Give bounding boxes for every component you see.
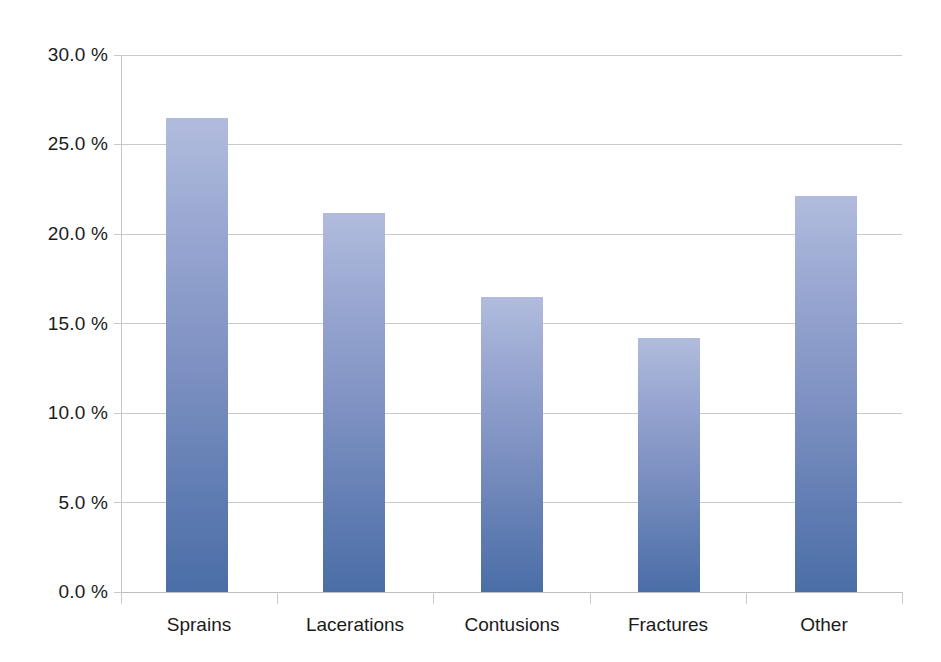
y-axis-tick-mark bbox=[114, 55, 121, 56]
x-axis-tick-mark bbox=[590, 592, 591, 604]
y-axis-tick-mark bbox=[114, 323, 121, 324]
x-axis-tick-mark bbox=[902, 592, 903, 604]
y-axis-tick-mark bbox=[114, 144, 121, 145]
x-tick-label-lacerations: Lacerations bbox=[306, 614, 404, 636]
gridline-20 bbox=[121, 234, 902, 235]
x-axis-tick-mark bbox=[433, 592, 434, 604]
bar-fractures bbox=[638, 338, 700, 592]
plot-area bbox=[121, 55, 902, 592]
x-axis-tick-mark bbox=[277, 592, 278, 604]
y-axis-labels: 30.0 % 25.0 % 20.0 % 15.0 % 10.0 % 5.0 %… bbox=[0, 0, 108, 662]
x-axis-tick-mark bbox=[746, 592, 747, 604]
x-tick-label-fractures: Fractures bbox=[628, 614, 708, 636]
y-tick-label-10: 10.0 % bbox=[8, 402, 108, 424]
y-tick-label-25: 25.0 % bbox=[8, 133, 108, 155]
gridline-25 bbox=[121, 144, 902, 145]
y-tick-label-15: 15.0 % bbox=[8, 313, 108, 335]
bar-lacerations bbox=[323, 213, 385, 592]
y-axis-tick-mark bbox=[114, 592, 121, 593]
bar-chart: 30.0 % 25.0 % 20.0 % 15.0 % 10.0 % 5.0 %… bbox=[0, 0, 941, 662]
y-axis-tick-mark bbox=[114, 502, 121, 503]
x-tick-label-other: Other bbox=[800, 614, 848, 636]
y-tick-label-30: 30.0 % bbox=[8, 44, 108, 66]
y-tick-label-5: 5.0 % bbox=[8, 492, 108, 514]
bar-other bbox=[795, 196, 857, 592]
x-tick-label-sprains: Sprains bbox=[167, 614, 231, 636]
x-tick-label-contusions: Contusions bbox=[464, 614, 559, 636]
bar-contusions bbox=[481, 297, 543, 592]
x-axis-line bbox=[121, 592, 902, 593]
y-tick-label-20: 20.0 % bbox=[8, 223, 108, 245]
y-tick-label-0: 0.0 % bbox=[8, 581, 108, 603]
y-axis-tick-mark bbox=[114, 234, 121, 235]
x-axis-tick-mark bbox=[121, 592, 122, 604]
gridline-30 bbox=[121, 55, 902, 56]
bar-sprains bbox=[166, 118, 228, 592]
y-axis-tick-mark bbox=[114, 413, 121, 414]
